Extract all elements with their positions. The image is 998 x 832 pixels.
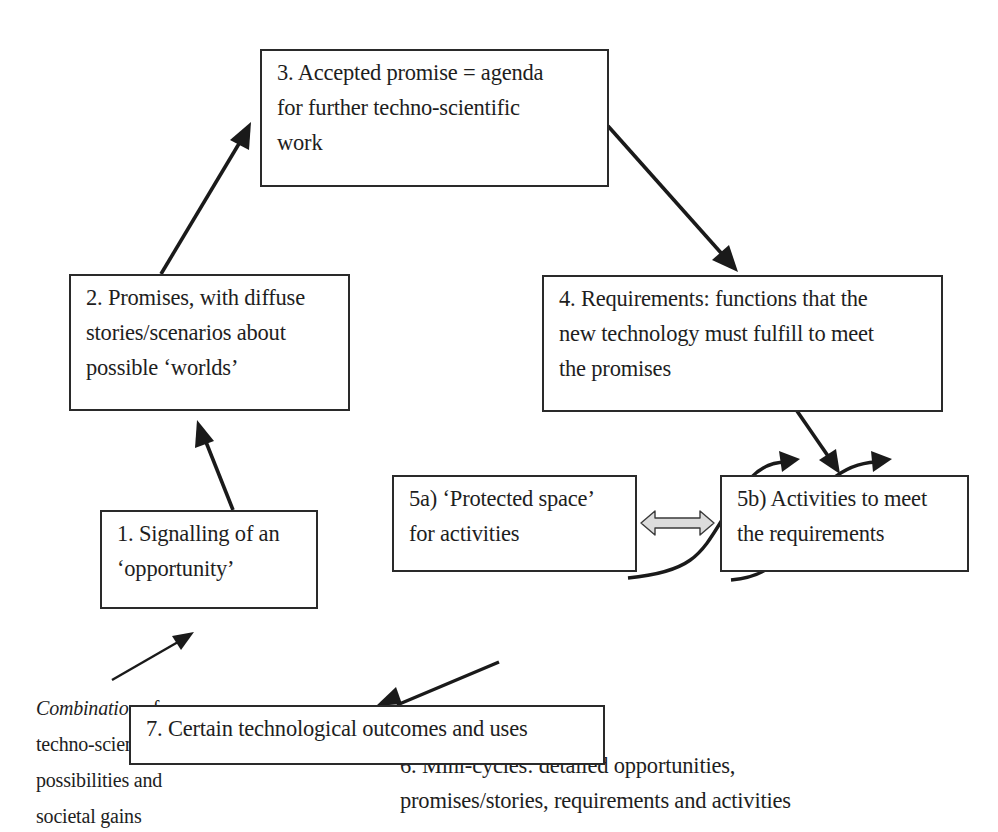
step1-text-line2: ‘opportunity’	[117, 551, 316, 586]
step3-text-line3: work	[277, 125, 607, 160]
input-annotation-line4: societal gains	[36, 798, 166, 832]
step7-text-line1: 7. Certain technological outcomes and us…	[146, 711, 603, 746]
step2-text-line1: 2. Promises, with diffuse	[86, 280, 348, 315]
step5a-text-line2: for activities	[409, 516, 635, 551]
step1-text-line1: 1. Signalling of an	[117, 516, 316, 551]
step7-box: 7. Certain technological outcomes and us…	[129, 705, 605, 765]
step5b-text-line2: the requirements	[737, 516, 967, 551]
arrow-input-to-step1	[112, 632, 194, 680]
arrow-step2-to-step3	[161, 122, 251, 274]
arrow-step4-to-step5b	[797, 411, 840, 474]
step5b-text-line1: 5b) Activities to meet	[737, 481, 967, 516]
step5b-box: 5b) Activities to meet the requirements	[720, 475, 969, 572]
input-annotation-line3: possibilities and	[36, 762, 166, 798]
step2-text-line2: stories/scenarios about	[86, 315, 348, 350]
step4-box: 4. Requirements: functions that the new …	[542, 275, 943, 412]
step2-box: 2. Promises, with diffuse stories/scenar…	[69, 274, 350, 411]
step3-text-line1: 3. Accepted promise = agenda	[277, 55, 607, 90]
step4-text-line2: new technology must fulfill to meet	[559, 316, 941, 351]
arrow-step1-to-step2	[195, 420, 233, 510]
step6-text-line2: promises/stories, requirements and activ…	[400, 783, 791, 818]
input-annotation-italic: Combination	[36, 697, 138, 719]
step4-text-line3: the promises	[559, 351, 941, 386]
step4-text-line1: 4. Requirements: functions that the	[559, 281, 941, 316]
step2-text-line3: possible ‘worlds’	[86, 350, 348, 385]
step5a-text-line1: 5a) ‘Protected space’	[409, 481, 635, 516]
arrow-step3-to-step4	[608, 126, 738, 272]
step1-box: 1. Signalling of an ‘opportunity’	[100, 510, 318, 609]
step3-text-line2: for further techno-scientific	[277, 90, 607, 125]
step3-box: 3. Accepted promise = agenda for further…	[260, 49, 609, 187]
double-arrow-step5a-step5b	[641, 511, 714, 535]
step5a-box: 5a) ‘Protected space’ for activities	[392, 475, 637, 572]
